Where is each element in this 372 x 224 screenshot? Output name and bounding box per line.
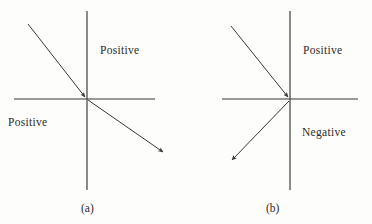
panel-b [222,11,358,190]
figure-vector-layer [0,0,372,224]
panel-a-label-lower-left: Positive [8,117,47,129]
panel-b-incident-ray [231,26,288,97]
panel-a [14,11,163,190]
figure-canvas: Positive Positive (a) Positive Negative … [0,0,372,224]
panel-a-label-upper-right: Positive [100,45,139,57]
panel-a-outgoing-ray [88,100,163,152]
panel-a-caption: (a) [81,203,94,215]
panel-b-outgoing-ray [232,101,289,160]
panel-b-label-lower-right: Negative [302,127,346,139]
panel-b-caption: (b) [266,203,279,215]
panel-a-incident-ray [28,24,85,97]
panel-b-label-upper-right: Positive [303,45,342,57]
